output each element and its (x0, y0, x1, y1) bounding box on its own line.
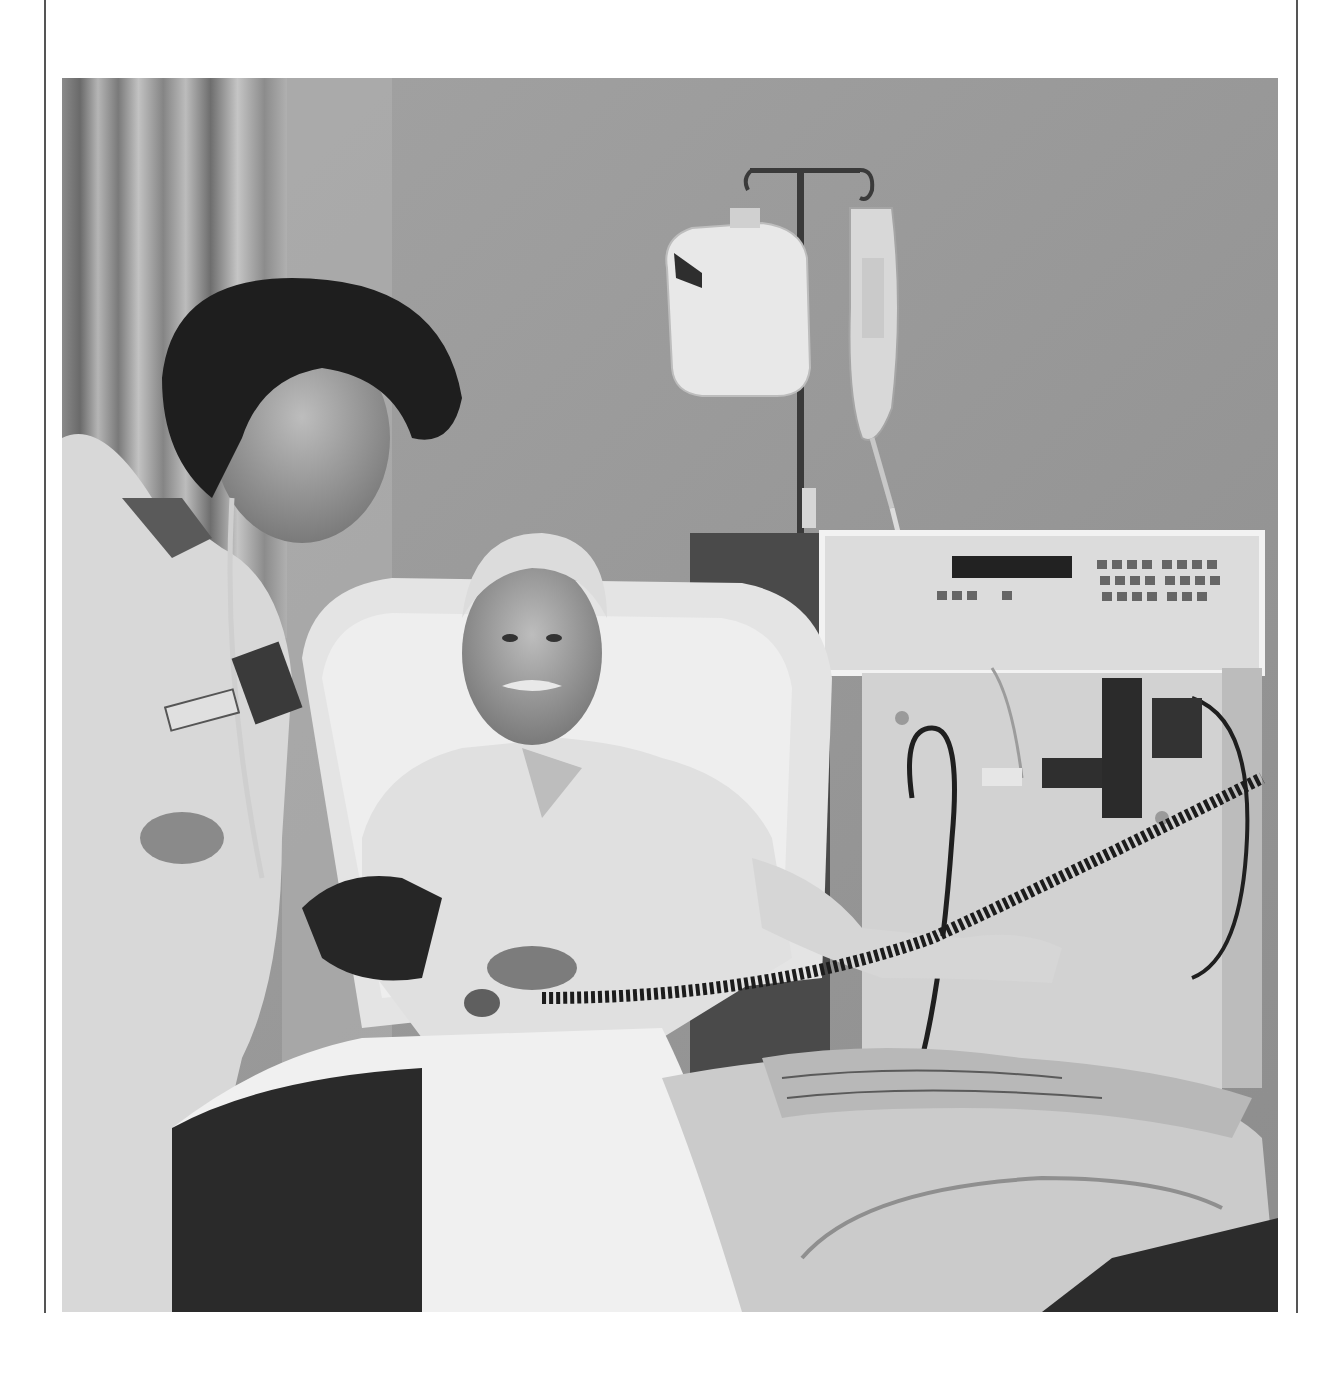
page-border-left (44, 0, 46, 1313)
photograph (62, 78, 1278, 1312)
page-border-right (1296, 0, 1298, 1313)
machine-display (952, 556, 1072, 578)
iv-jug (666, 208, 810, 396)
small-bottle (802, 488, 816, 528)
